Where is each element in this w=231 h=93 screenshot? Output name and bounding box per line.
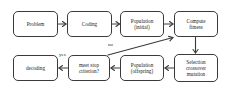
node-selection-crossover-mutation: Selection crossover mutation <box>174 54 218 82</box>
node-compute-fitness: Compute fitness <box>174 11 218 37</box>
node-stop-criterion-decision: meet stop criterion? <box>68 55 110 81</box>
node-stop-criterion-label: meet stop criterion? <box>79 62 99 74</box>
node-decoding: decoding <box>13 55 58 81</box>
node-selection-label: Selection crossover mutation <box>186 59 206 77</box>
node-coding: Coding <box>67 11 112 37</box>
arrow-population-offspring-to-stop-criterion <box>111 66 120 71</box>
node-population-initial-label: Population (initial) <box>131 18 153 30</box>
arrow-selection-to-population-offspring <box>165 66 174 71</box>
node-problem: Problem <box>13 11 58 37</box>
edge-label-yes: yes <box>59 52 66 57</box>
arrow-problem-to-coding <box>59 22 67 27</box>
arrow-population-initial-to-compute-fitness <box>165 22 174 27</box>
arrow-coding-to-population-initial <box>113 22 120 27</box>
node-population-offspring-label: Population (offspring) <box>131 62 153 74</box>
arrow-compute-fitness-to-selection <box>193 37 198 53</box>
arrow-stop-criterion-to-decoding-yes <box>59 66 68 71</box>
node-compute-fitness-label: Compute fitness <box>186 18 205 30</box>
node-population-offspring: Population (offspring) <box>120 55 164 81</box>
edge-label-no: no <box>108 42 113 47</box>
node-problem-label: Problem <box>27 21 45 27</box>
node-population-initial: Population (initial) <box>120 11 164 37</box>
arrow-stop-criterion-to-compute-fitness-no <box>108 36 173 55</box>
node-coding-label: Coding <box>82 21 97 27</box>
node-decoding-label: decoding <box>26 65 45 71</box>
genetic-algorithm-flowchart: Problem Coding Population (initial) Comp… <box>0 0 231 93</box>
